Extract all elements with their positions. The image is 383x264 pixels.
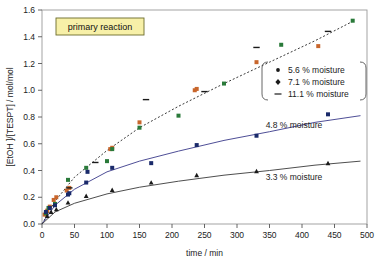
- x-axis-tick-label: 250: [197, 230, 211, 240]
- x-axis-tick-label: 100: [100, 230, 114, 240]
- data-point: [53, 203, 57, 207]
- data-point: [316, 44, 320, 48]
- x-axis-title: time / min: [186, 248, 223, 258]
- x-axis-tick-label: 50: [70, 230, 80, 240]
- data-point: [195, 143, 199, 147]
- legend-label: 7.1 % moisture: [288, 77, 345, 87]
- legend-label: 11.1 % moisture: [288, 89, 349, 99]
- data-point: [84, 181, 88, 185]
- data-point: [54, 195, 58, 199]
- data-point: [177, 114, 181, 118]
- y-axis-tick-label: 0.6: [23, 139, 35, 149]
- data-point: [105, 159, 109, 163]
- data-point: [110, 166, 114, 170]
- data-point: [279, 43, 283, 47]
- data-point: [255, 60, 259, 64]
- y-axis-tick-label: 0.8: [23, 112, 35, 122]
- data-point: [255, 134, 259, 138]
- inline-curve-label: 3.3 % moisture: [266, 172, 323, 182]
- y-axis-tick-label: 1.0: [23, 85, 35, 95]
- y-axis-tick-label: 0.4: [23, 166, 35, 176]
- x-axis-tick-label: 500: [360, 230, 374, 240]
- data-point: [222, 82, 226, 86]
- x-axis-tick-label: 450: [327, 230, 341, 240]
- data-point: [351, 19, 355, 23]
- data-point: [195, 87, 199, 91]
- y-axis-title: [EtOH ]/[TESPT] / mol/mol: [5, 67, 15, 166]
- x-axis-tick-label: 200: [165, 230, 179, 240]
- y-axis-tick-label: 0.0: [23, 219, 35, 229]
- y-axis-tick-label: 0.2: [23, 192, 35, 202]
- chart-svg: 0.00.20.40.60.81.01.21.41.60501001502002…: [0, 0, 383, 264]
- x-axis-tick-label: 400: [295, 230, 309, 240]
- data-point: [67, 191, 71, 195]
- data-point: [48, 206, 52, 210]
- primary-reaction-label: primary reaction: [68, 22, 133, 32]
- y-axis-tick-label: 1.6: [23, 5, 35, 15]
- data-point: [138, 120, 142, 124]
- data-point: [149, 161, 153, 165]
- x-axis-tick-label: 0: [40, 230, 45, 240]
- x-axis-tick-label: 300: [230, 230, 244, 240]
- plot-frame: [42, 10, 367, 224]
- data-point: [86, 170, 90, 174]
- data-point: [66, 178, 70, 182]
- data-point: [138, 126, 142, 130]
- data-point: [326, 112, 330, 116]
- inline-curve-label: 4.8 % moisture: [266, 120, 323, 130]
- chart-container: 0.00.20.40.60.81.01.21.41.60501001502002…: [0, 0, 383, 264]
- y-axis-tick-label: 1.4: [23, 32, 35, 42]
- data-point: [110, 147, 114, 151]
- data-point: [84, 166, 88, 170]
- x-axis-tick-label: 150: [132, 230, 146, 240]
- data-point: [44, 210, 48, 214]
- legend-label: 5.6 % moisture: [288, 65, 345, 75]
- y-axis-tick-label: 1.2: [23, 59, 35, 69]
- x-axis-tick-label: 350: [262, 230, 276, 240]
- legend-marker: [276, 68, 280, 72]
